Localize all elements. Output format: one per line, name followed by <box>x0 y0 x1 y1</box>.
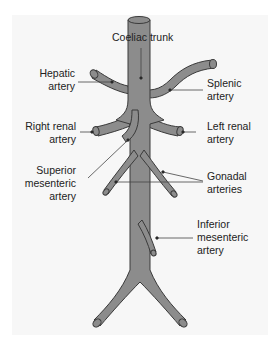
aorta-top-opening <box>128 17 150 24</box>
label-splenic-artery: Splenic artery <box>207 77 241 103</box>
label-gonadal-arteries: Gonadal arteries <box>207 170 247 196</box>
label-hepatic-artery: Hepatic artery <box>30 67 75 93</box>
label-coeliac-trunk: Coeliac trunk <box>112 31 173 44</box>
label-superior-mesenteric-artery: Superior mesenteric artery <box>14 164 76 203</box>
vessels <box>89 17 217 329</box>
abdominal-aorta <box>94 20 186 326</box>
label-right-renal-artery: Right renal artery <box>14 120 76 146</box>
label-left-renal-artery: Left renal artery <box>207 120 251 146</box>
splenic-artery-end <box>210 60 217 69</box>
label-inferior-mesenteric-artery: Inferior mesenteric artery <box>197 218 248 257</box>
